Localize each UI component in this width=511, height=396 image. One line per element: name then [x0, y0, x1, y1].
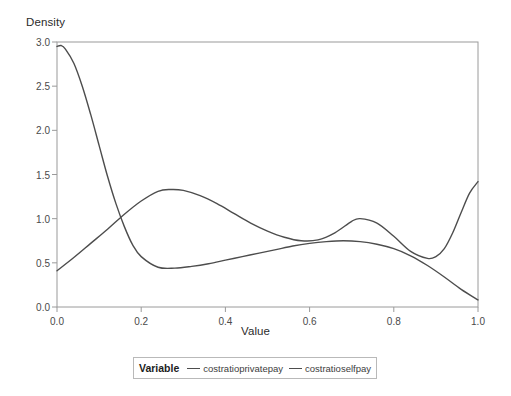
y-tick-label: 0.5 [22, 257, 50, 268]
chart-legend: Variable costratioprivatepay costratiose… [133, 357, 377, 379]
y-tick-label: 1.0 [22, 213, 50, 224]
legend-entry-costratioprivatepay: costratioprivatepay [187, 363, 283, 374]
x-tick-label: 0.6 [303, 316, 317, 327]
x-tick-label: 0.2 [134, 316, 148, 327]
legend-title: Variable [139, 362, 181, 374]
y-tick-label: 3.0 [22, 37, 50, 48]
y-tick-label: 2.0 [22, 125, 50, 136]
series-line-costratioprivatepay [57, 45, 478, 299]
x-tick-label: 0.4 [218, 316, 232, 327]
legend-label-costratioselfpay: costratioselfpay [305, 363, 371, 374]
legend-line-swatch-icon [187, 368, 200, 369]
y-tick-label: 0.0 [22, 302, 50, 313]
legend-label-costratioprivatepay: costratioprivatepay [203, 363, 283, 374]
legend-entry-costratioselfpay: costratioselfpay [289, 363, 371, 374]
x-tick-label: 0.8 [387, 316, 401, 327]
legend-line-swatch-icon [289, 368, 302, 369]
x-axis-title: Value [0, 325, 511, 337]
y-tick-label: 1.5 [22, 169, 50, 180]
density-plot: Density Value Variable costratioprivatep… [0, 0, 511, 396]
x-tick-label: 0.0 [50, 316, 64, 327]
x-tick-label: 1.0 [471, 316, 485, 327]
y-tick-label: 2.5 [22, 81, 50, 92]
